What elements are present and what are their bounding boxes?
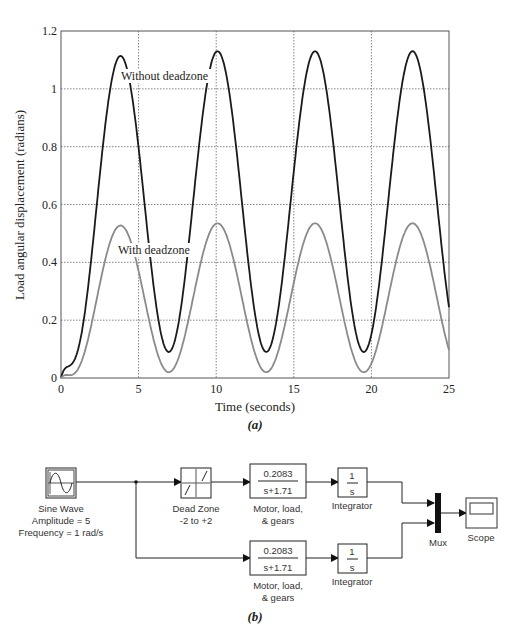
int-bottom-numerator: 1 xyxy=(349,546,354,557)
int-top-numerator: 1 xyxy=(349,470,354,481)
y-tick-labels: 00.20.40.60.811.2 xyxy=(42,24,57,385)
tf-top-denominator: s+1.71 xyxy=(264,485,293,496)
wire-int-top-to-mux xyxy=(367,482,434,503)
tf-top-numerator: 0.2083 xyxy=(263,468,292,479)
tf-top-label-1: Motor, load, xyxy=(253,503,303,514)
series-without-deadzone xyxy=(61,51,449,378)
x-tick-label: 10 xyxy=(210,382,222,396)
annotation-with-deadzone: With deadzone xyxy=(118,243,190,257)
annotation-without-deadzone: Without deadzone xyxy=(121,69,208,83)
y-tick-label: 1.2 xyxy=(42,24,57,38)
x-tick-labels: 0510152025 xyxy=(58,382,455,396)
mux-block[interactable] xyxy=(435,493,441,533)
caption-b: (b) xyxy=(247,609,262,624)
sine-label-3: Frequency = 1 rad/s xyxy=(19,527,104,538)
y-tick-label: 0.2 xyxy=(42,313,57,327)
tf-bottom-numerator: 0.2083 xyxy=(263,545,292,556)
int-top-label: Integrator xyxy=(332,500,373,511)
y-tick-label: 0.6 xyxy=(42,198,57,212)
x-axis-label: Time (seconds) xyxy=(215,399,295,414)
int-bottom-denominator: s xyxy=(350,562,355,573)
scope-label: Scope xyxy=(468,532,495,543)
response-chart: 00.20.40.60.811.2 0510152025 Load angula… xyxy=(12,24,455,432)
figure: 00.20.40.60.811.2 0510152025 Load angula… xyxy=(0,0,510,633)
y-tick-label: 0.8 xyxy=(42,140,57,154)
sine-wave-block[interactable] xyxy=(46,468,76,498)
tf-bottom-label-2: & gears xyxy=(262,592,295,603)
x-tick-label: 0 xyxy=(58,382,64,396)
wire-int-bottom-to-mux xyxy=(367,523,434,558)
dead-zone-block[interactable] xyxy=(181,468,211,498)
deadzone-label-2: -2 to +2 xyxy=(180,515,212,526)
mux-label: Mux xyxy=(429,537,447,548)
x-tick-label: 15 xyxy=(288,382,300,396)
y-axis-label: Load angular displacement (radians) xyxy=(12,110,27,300)
y-tick-label: 1 xyxy=(51,82,57,96)
x-tick-label: 25 xyxy=(443,382,455,396)
scope-block[interactable] xyxy=(466,498,497,528)
x-tick-label: 20 xyxy=(365,382,377,396)
sine-label-1: Sine Wave xyxy=(38,503,84,514)
x-tick-label: 5 xyxy=(136,382,142,396)
int-top-denominator: s xyxy=(350,486,355,497)
sine-label-2: Amplitude = 5 xyxy=(32,515,90,526)
y-tick-label: 0.4 xyxy=(42,255,57,269)
tf-bottom-label-1: Motor, load, xyxy=(253,580,303,591)
simulink-diagram: Sine Wave Amplitude = 5 Frequency = 1 ra… xyxy=(19,464,497,624)
tf-bottom-denominator: s+1.71 xyxy=(264,562,293,573)
y-tick-label: 0 xyxy=(51,371,57,385)
deadzone-label-1: Dead Zone xyxy=(172,503,219,514)
tf-top-label-2: & gears xyxy=(262,515,295,526)
caption-a: (a) xyxy=(247,417,262,432)
chart-grid xyxy=(61,31,449,378)
int-bottom-label: Integrator xyxy=(332,576,373,587)
